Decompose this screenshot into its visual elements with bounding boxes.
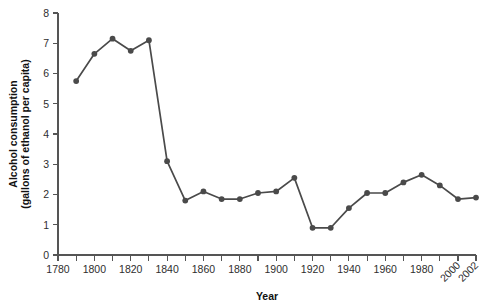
data-point-2000 <box>455 196 461 202</box>
series-polyline <box>76 39 476 228</box>
data-point-1970 <box>401 180 407 186</box>
data-point-1800 <box>91 51 97 57</box>
y-axis: 012345678 <box>43 7 58 261</box>
y-axis-title-line1: Alcohol consumption <box>7 80 19 187</box>
data-series-alcohol-consumption <box>73 36 479 231</box>
y-tick-label-4: 4 <box>43 128 49 140</box>
data-point-1890 <box>255 190 261 196</box>
data-point-1850 <box>182 198 188 204</box>
data-point-1790 <box>73 78 79 84</box>
data-point-1990 <box>437 183 443 189</box>
x-tick-label-1820: 1820 <box>119 263 143 275</box>
x-tick-label-1840: 1840 <box>155 263 179 275</box>
data-point-2002 <box>473 195 479 201</box>
x-tick-label-1860: 1860 <box>192 263 216 275</box>
data-point-1810 <box>110 36 116 42</box>
y-tick-label-2: 2 <box>43 188 49 200</box>
y-tick-label-8: 8 <box>43 7 49 19</box>
data-point-1960 <box>382 190 388 196</box>
data-point-1860 <box>201 189 207 195</box>
data-point-1980 <box>419 172 425 178</box>
data-point-1940 <box>346 205 352 211</box>
x-tick-label-1800: 1800 <box>83 263 107 275</box>
y-axis-title-line2: (gallons of ethanol per capita) <box>19 59 31 208</box>
y-tick-label-1: 1 <box>43 219 49 231</box>
x-tick-label-1960: 1960 <box>374 263 398 275</box>
x-tick-label-1880: 1880 <box>228 263 252 275</box>
data-point-1920 <box>310 225 316 231</box>
data-point-1840 <box>164 158 170 164</box>
data-point-1830 <box>146 37 152 43</box>
data-point-1820 <box>128 48 134 54</box>
x-tick-label-1780: 1780 <box>46 263 70 275</box>
x-tick-label-1900: 1900 <box>265 263 289 275</box>
y-tick-label-0: 0 <box>43 249 49 261</box>
x-axis: 1780180018201840186018801900192019401960… <box>46 255 480 284</box>
data-point-1870 <box>219 196 225 202</box>
x-axis-title: Year <box>256 290 278 302</box>
data-point-1910 <box>291 175 297 181</box>
y-tick-label-3: 3 <box>43 158 49 170</box>
x-tick-label-1980: 1980 <box>410 263 434 275</box>
x-tick-label-1940: 1940 <box>337 263 361 275</box>
y-tick-label-6: 6 <box>43 67 49 79</box>
data-point-1950 <box>364 190 370 196</box>
data-point-1900 <box>273 189 279 195</box>
line-chart: 012345678 178018001820184018601880190019… <box>0 0 488 308</box>
chart-container: 012345678 178018001820184018601880190019… <box>0 0 488 308</box>
x-tick-label-1920: 1920 <box>301 263 325 275</box>
y-tick-label-7: 7 <box>43 37 49 49</box>
data-point-1880 <box>237 196 243 202</box>
y-tick-label-5: 5 <box>43 98 49 110</box>
data-point-1930 <box>328 225 334 231</box>
x-tick-label-2002: 2002 <box>455 259 480 284</box>
